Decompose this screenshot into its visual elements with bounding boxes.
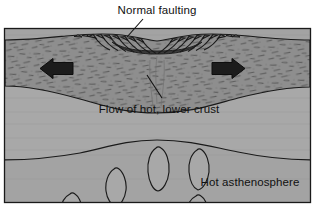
label-normal-faulting: Normal faulting [118,4,197,16]
label-flow-lower-crust: Flow of hot, lower crust [99,103,220,115]
rift-cross-section-figure: Normal faulting Flow of hot, lower crust… [0,0,315,216]
diagram-canvas: Normal faulting Flow of hot, lower crust… [0,0,315,216]
label-hot-asthenosphere: Hot asthenosphere [201,176,300,188]
